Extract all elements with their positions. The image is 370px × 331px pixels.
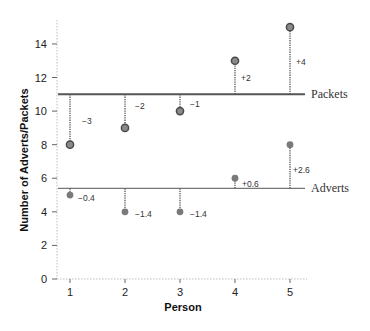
x-tick-label: 1	[67, 286, 73, 298]
deviation-chart: 0246810121412345 Packets−3−2−1+2+4Advert…	[0, 0, 370, 331]
x-tick-label: 5	[287, 286, 293, 298]
packets-data-point	[176, 108, 183, 115]
y-tick-label: 8	[41, 139, 47, 151]
y-tick-label: 4	[41, 206, 47, 218]
adverts-data-point	[232, 175, 239, 182]
axes: 0246810121412345	[35, 20, 307, 298]
packets-data-point	[121, 124, 128, 131]
adverts-deviation-label: −1.4	[190, 209, 207, 219]
adverts-deviation-label: +2.6	[293, 165, 310, 175]
x-axis-title: Person	[164, 301, 202, 313]
y-axis-title: Number of Adverts/Packets	[18, 88, 30, 231]
adverts-data-point	[177, 208, 184, 215]
data-markers	[66, 24, 293, 216]
packets-deviation-label: +2	[241, 73, 251, 83]
adverts-deviation-label: +0.6	[242, 179, 259, 189]
x-tick-label: 2	[122, 286, 128, 298]
x-tick-label: 3	[177, 286, 183, 298]
y-tick-label: 6	[41, 172, 47, 184]
packets-series-label: Packets	[311, 87, 348, 101]
y-tick-label: 14	[35, 38, 47, 50]
adverts-deviation-label: −0.4	[78, 193, 95, 203]
packets-data-point	[66, 141, 73, 148]
y-tick-label: 0	[41, 273, 47, 285]
adverts-deviation-label: −1.4	[135, 209, 152, 219]
adverts-data-point	[67, 192, 74, 199]
labels: Packets−3−2−1+2+4Adverts−0.4−1.4−1.4+0.6…	[78, 57, 349, 219]
y-tick-label: 2	[41, 239, 47, 251]
y-tick-label: 12	[35, 72, 47, 84]
packets-data-point	[286, 24, 293, 31]
packets-deviation-label: −2	[135, 101, 145, 111]
adverts-series-label: Adverts	[311, 181, 349, 195]
adverts-data-point	[287, 141, 294, 148]
packets-deviation-label: −3	[82, 116, 92, 126]
y-tick-label: 10	[35, 105, 47, 117]
packets-deviation-label: −1	[190, 99, 200, 109]
packets-deviation-label: +4	[296, 57, 306, 67]
x-tick-label: 4	[232, 286, 238, 298]
adverts-data-point	[122, 208, 129, 215]
packets-data-point	[231, 57, 238, 64]
